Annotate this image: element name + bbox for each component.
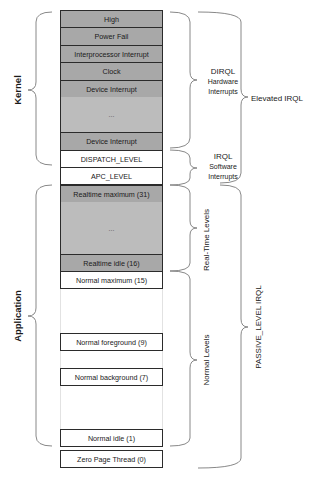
normal-gap-1 [60, 289, 163, 333]
level-normal-background: Normal background (7) [60, 368, 163, 386]
level-normal-foreground: Normal foreground (9) [60, 333, 163, 351]
level-high: High [60, 10, 163, 28]
level-clock: Clock [60, 62, 163, 81]
level-normal-idle: Normal idle (1) [60, 429, 163, 447]
level-apc: APC_LEVEL [60, 167, 163, 185]
elevated-irql-label: Elevated IRQL [251, 94, 303, 104]
level-power-fail: Power Fail [60, 27, 163, 46]
irql-software-brace [170, 150, 197, 185]
level-zero-page-thread: Zero Page Thread (0) [60, 450, 163, 468]
kernel-brace [28, 12, 52, 165]
dirql-brace [170, 12, 197, 148]
normal-gap-2 [60, 351, 163, 368]
passive-level-label: PASSIVE_LEVEL IRQL [254, 285, 263, 369]
level-device-interrupt-top: Device Interrupt [60, 80, 163, 98]
kernel-label: Kernel [12, 75, 23, 105]
level-realtime-idle: Realtime idle (16) [60, 254, 163, 272]
dirql-label: DIRQL Hardware Interrupts [200, 67, 246, 96]
level-device-interrupt-bottom: Device Interrupt [60, 132, 163, 151]
level-realtime-maximum: Realtime maximum (31) [60, 185, 163, 203]
level-normal-maximum: Normal maximum (15) [60, 271, 163, 289]
level-dispatch: DISPATCH_LEVEL [60, 150, 163, 168]
realtime-levels-label: Real-Time Levels [202, 209, 211, 271]
application-label: Application [12, 290, 23, 342]
normal-brace [170, 271, 197, 446]
level-interprocessor-interrupt: Interprocessor Interrupt [60, 45, 163, 63]
normal-gap-3 [60, 386, 163, 429]
normal-levels-label: Normal Levels [202, 334, 211, 385]
irql-software-label: IRQL Software Interrupts [200, 152, 246, 181]
application-brace [28, 185, 52, 446]
device-interrupt-ellipsis: ... [60, 97, 163, 133]
realtime-ellipsis: ... [60, 202, 163, 255]
realtime-brace [170, 185, 197, 271]
